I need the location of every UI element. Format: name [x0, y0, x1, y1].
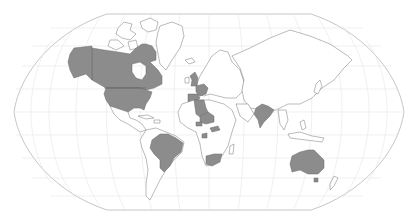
hispaniola	[154, 120, 160, 123]
world-map	[0, 0, 413, 222]
country-burkina-faso	[196, 122, 202, 126]
country-gabon	[202, 133, 207, 138]
ireland	[185, 77, 189, 83]
country-australia-tasmania	[314, 178, 318, 182]
